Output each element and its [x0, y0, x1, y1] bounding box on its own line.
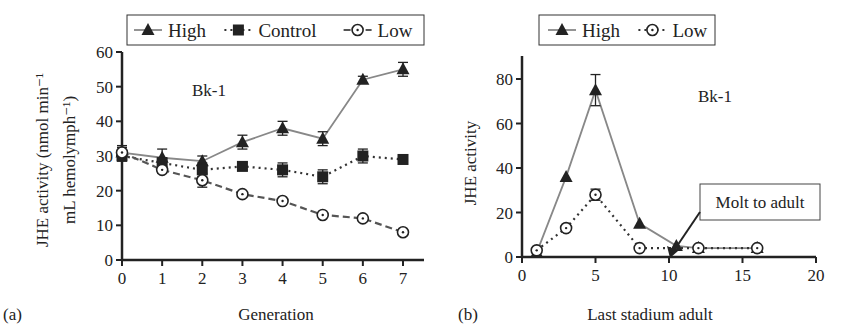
- callout-text: Molt to adult: [716, 193, 805, 212]
- y-tick-label: 60: [496, 115, 513, 134]
- high-marker: [589, 83, 602, 95]
- y-tick-label: 50: [96, 78, 113, 97]
- plot-area-a: [116, 62, 410, 237]
- y-axis-label-a-line1: JHE activity (nmol min⁻¹: [33, 73, 52, 247]
- x-tick-label: 1: [158, 269, 167, 288]
- y-tick-label: 60: [96, 43, 113, 62]
- high-marker: [560, 170, 573, 182]
- legend-label: Low: [378, 20, 413, 41]
- legend-label: Control: [258, 20, 316, 41]
- x-tick-label: 5: [591, 266, 600, 285]
- legend-label: High: [168, 20, 207, 41]
- annotation-bk1-b: Bk-1: [698, 87, 732, 106]
- y-tick-label: 80: [496, 70, 513, 89]
- high-marker: [276, 121, 289, 133]
- legend-control-marker: [233, 25, 244, 36]
- control-marker: [398, 154, 409, 165]
- x-tick-label: 15: [734, 266, 751, 285]
- x-tick-label: 5: [318, 269, 327, 288]
- figure: HighControlLow 010203040506001234567 Bk-…: [0, 0, 852, 335]
- y-tick-label: 20: [96, 182, 113, 201]
- x-tick-label: 10: [661, 266, 678, 285]
- y-tick-label: 40: [496, 159, 513, 178]
- panel-label-a: (a): [3, 305, 22, 324]
- control-marker: [277, 164, 288, 175]
- legend-label: High: [582, 20, 621, 41]
- axes-b: 02040608005101520: [496, 56, 825, 285]
- x-tick-label: 0: [118, 269, 127, 288]
- x-tick-label: 7: [399, 269, 408, 288]
- control-marker: [317, 171, 328, 182]
- x-tick-label: 6: [359, 269, 368, 288]
- high-marker: [633, 217, 646, 229]
- legend-b: HighLow: [539, 15, 715, 45]
- annotation-bk1-a: Bk-1: [192, 81, 226, 100]
- x-tick-label: 0: [518, 266, 527, 285]
- control-marker: [357, 151, 368, 162]
- chart-panel-a: HighControlLow 010203040506001234567 Bk-…: [0, 0, 852, 335]
- y-tick-label: 10: [96, 216, 113, 235]
- x-axis-label-a: Generation: [238, 305, 314, 324]
- x-tick-label: 4: [278, 269, 287, 288]
- y-tick-label: 30: [96, 147, 113, 166]
- x-tick-label: 3: [238, 269, 247, 288]
- high-marker: [397, 62, 410, 74]
- y-tick-label: 40: [96, 112, 113, 131]
- x-tick-label: 20: [808, 266, 825, 285]
- y-tick-label: 0: [505, 248, 514, 267]
- y-axis-label-b: JHE activity: [461, 120, 480, 205]
- axes-a: 010203040506001234567: [96, 43, 424, 288]
- y-axis-label-a-line2: mL hemolymph⁻¹): [60, 96, 79, 224]
- legend-a: HighControlLow: [127, 15, 424, 45]
- y-tick-label: 0: [105, 251, 114, 270]
- x-tick-label: 2: [198, 269, 207, 288]
- control-marker: [237, 161, 248, 172]
- y-tick-label: 20: [496, 204, 513, 223]
- panel-label-b: (b): [458, 305, 478, 324]
- x-axis-label-b: Last stadium adult: [587, 305, 713, 324]
- legend-label: Low: [672, 20, 707, 41]
